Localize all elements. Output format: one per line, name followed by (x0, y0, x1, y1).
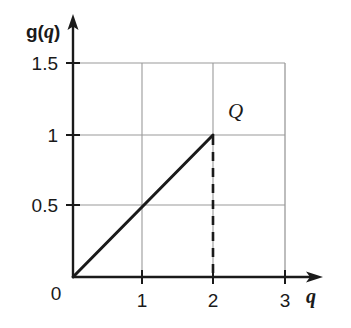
y-tick-label-1.5: 1.5 (32, 53, 58, 74)
origin-label: 0 (51, 283, 62, 304)
y-tick-label-1: 1 (47, 125, 58, 146)
chart-figure: g(q) q 0 1.5 1 0.5 1 2 3 Q (0, 0, 351, 328)
plot-background (0, 0, 351, 328)
y-tick-label-0.5: 0.5 (32, 195, 58, 216)
x-axis-title: q (306, 285, 316, 308)
annotation-label-q: Q (228, 99, 243, 123)
y-axis-title-paren: ) (54, 21, 60, 42)
x-tick-label-2: 2 (208, 290, 219, 311)
x-tick-label-3: 3 (280, 290, 291, 311)
x-tick-label-1: 1 (137, 290, 148, 311)
y-axis-title-func: g( (26, 21, 45, 42)
y-axis-title: g(q) (26, 20, 60, 43)
function-plot-svg: g(q) q 0 1.5 1 0.5 1 2 3 Q (0, 0, 351, 328)
y-axis-title-var: q (44, 20, 54, 43)
